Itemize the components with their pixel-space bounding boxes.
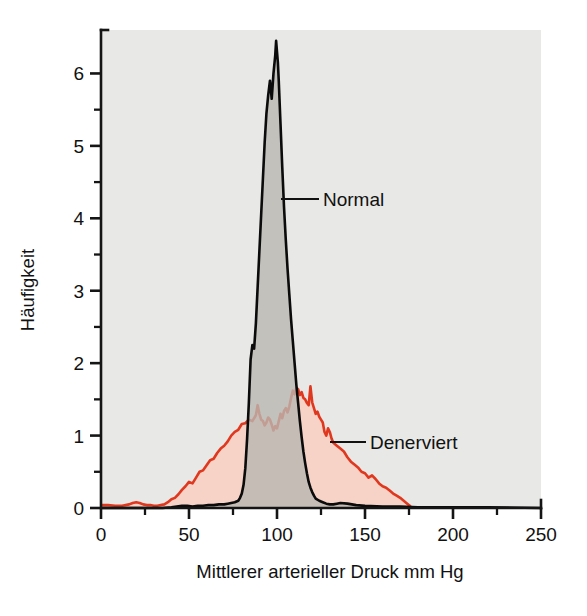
y-tick-label: 3 [73, 281, 84, 302]
x-tick-label: 50 [178, 524, 199, 545]
y-tick-label: 1 [73, 426, 84, 447]
figure-container: 050100150200250 0123456 Mittlerer arteri… [0, 0, 587, 616]
x-tick-label: 150 [349, 524, 381, 545]
y-tick-labels: 0123456 [73, 63, 84, 519]
x-axis-title: Mittlerer arterieller Druck mm Hg [196, 561, 463, 582]
x-tick-labels: 050100150200250 [96, 524, 557, 545]
y-tick-label: 2 [73, 353, 84, 374]
y-tick-label: 0 [73, 498, 84, 519]
denerviert-label: Denerviert [370, 432, 458, 453]
y-tick-label: 4 [73, 208, 84, 229]
x-tick-label: 250 [525, 524, 557, 545]
y-tick-label: 5 [73, 136, 84, 157]
y-axis-title: Häufigkeit [17, 249, 38, 331]
normal-label: Normal [323, 189, 384, 210]
x-tick-label: 100 [261, 524, 293, 545]
x-tick-label: 200 [437, 524, 469, 545]
y-tick-label: 6 [73, 63, 84, 84]
frequency-distribution-chart: 050100150200250 0123456 Mittlerer arteri… [0, 0, 587, 616]
x-tick-label: 0 [96, 524, 107, 545]
